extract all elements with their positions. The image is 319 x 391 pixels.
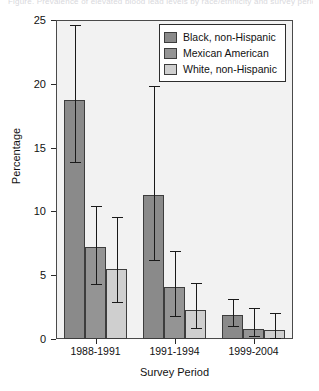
figure-chart: Figure. Prevalence of elevated blood lea…	[0, 0, 319, 391]
error-bar-stem	[254, 308, 255, 336]
error-bar-cap-upper	[270, 313, 281, 314]
y-axis-tick	[51, 148, 56, 149]
y-axis-tick	[51, 275, 56, 276]
error-bar-stem	[233, 299, 234, 326]
x-axis-tick	[254, 339, 255, 344]
y-axis-title: Percentage	[10, 96, 22, 216]
legend-swatch-icon	[164, 64, 177, 75]
legend-label: Black, non-Hispanic	[183, 31, 276, 43]
error-bar-stem	[117, 217, 118, 302]
error-bar-cap-upper	[112, 217, 123, 218]
legend-swatch-icon	[164, 48, 177, 59]
error-bar-cap-upper	[149, 86, 160, 87]
y-axis-tick-label: 25	[6, 15, 46, 25]
legend-label: Mexican American	[183, 47, 269, 59]
error-bar-stem	[96, 206, 97, 284]
error-bar-cap-lower	[149, 260, 160, 261]
error-bar-cap-lower	[228, 326, 239, 327]
error-bar-stem	[196, 283, 197, 328]
error-bar-cap-upper	[70, 25, 81, 26]
error-bar-cap-lower	[112, 302, 123, 303]
error-bar-cap-lower	[191, 328, 202, 329]
x-axis-title: Survey Period	[56, 366, 293, 378]
x-axis-tick	[96, 339, 97, 344]
y-axis-tick	[51, 211, 56, 212]
legend-item: Mexican American	[164, 45, 280, 61]
legend-item: White, non-Hispanic	[164, 61, 280, 77]
y-axis-tick-label: 20	[6, 79, 46, 89]
error-bar-cap-upper	[228, 299, 239, 300]
figure-caption: Figure. Prevalence of elevated blood lea…	[8, 0, 313, 9]
error-bar-stem	[154, 86, 155, 260]
legend-item: Black, non-Hispanic	[164, 29, 280, 45]
y-axis-tick	[51, 20, 56, 21]
error-bar-cap-lower	[249, 336, 260, 337]
x-axis-tick-label: 1988-1991	[56, 345, 136, 357]
error-bar-cap-lower	[70, 162, 81, 163]
x-axis-tick-label: 1999-2004	[214, 345, 294, 357]
error-bar-cap-lower	[91, 284, 102, 285]
error-bar-cap-upper	[249, 308, 260, 309]
legend: Black, non-Hispanic Mexican American Whi…	[159, 24, 286, 82]
error-bar-stem	[75, 25, 76, 162]
error-bar-cap-upper	[170, 251, 181, 252]
x-axis-tick-label: 1991-1994	[135, 345, 215, 357]
y-axis-tick	[51, 84, 56, 85]
error-bar-stem	[175, 251, 176, 316]
error-bar-stem	[275, 313, 276, 337]
legend-label: White, non-Hispanic	[183, 63, 277, 75]
error-bar-cap-lower	[270, 338, 281, 339]
error-bar-cap-upper	[91, 206, 102, 207]
error-bar-cap-lower	[170, 316, 181, 317]
y-axis-tick	[51, 339, 56, 340]
y-axis-tick-label: 5	[6, 270, 46, 280]
y-axis-tick-label: 0	[6, 334, 46, 344]
error-bar-cap-upper	[191, 283, 202, 284]
x-axis-tick	[175, 339, 176, 344]
legend-swatch-icon	[164, 32, 177, 43]
